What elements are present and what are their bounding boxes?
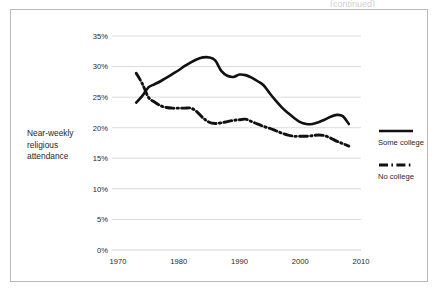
data-series-group [136, 57, 349, 146]
y-axis-title-line-1: Near-weekly [27, 128, 103, 140]
legend-swatch-solid [378, 126, 414, 136]
legend-swatch-dashdot [378, 160, 414, 170]
x-tick-label-2000: 2000 [292, 257, 309, 266]
series-line-some-college [136, 57, 349, 124]
legend-label: No college [378, 172, 438, 181]
legend-label: Some college [378, 138, 438, 147]
x-axis-tick-labels: 19701980199020002010 [110, 257, 370, 266]
gridlines-group [112, 36, 361, 250]
y-axis-title-line-2: religious [27, 140, 103, 152]
x-tick-label-1970: 1970 [110, 257, 127, 266]
y-axis-title-line-3: attendance [27, 151, 103, 163]
figure-frame: 0%5%10%15%20%25%30%35% 19701980199020002… [10, 9, 428, 282]
y-tick-label-25: 25% [93, 93, 108, 102]
legend-entry-some-college[interactable]: Some college [378, 126, 438, 147]
series-line-no-college [136, 73, 349, 146]
chart-legend: Some collegeNo college [378, 126, 438, 194]
x-tick-label-2010: 2010 [353, 257, 370, 266]
cropped-caption-artifact: (continued) [330, 0, 430, 7]
y-axis-title: Near-weekly religious attendance [27, 128, 103, 163]
y-tick-label-5: 5% [97, 215, 108, 224]
x-tick-label-1990: 1990 [231, 257, 248, 266]
x-tick-label-1980: 1980 [170, 257, 187, 266]
y-tick-label-30: 30% [93, 62, 108, 71]
legend-entry-no-college[interactable]: No college [378, 160, 438, 181]
y-tick-label-0: 0% [97, 246, 108, 255]
y-tick-label-10: 10% [93, 185, 108, 194]
y-tick-label-35: 35% [93, 32, 108, 41]
